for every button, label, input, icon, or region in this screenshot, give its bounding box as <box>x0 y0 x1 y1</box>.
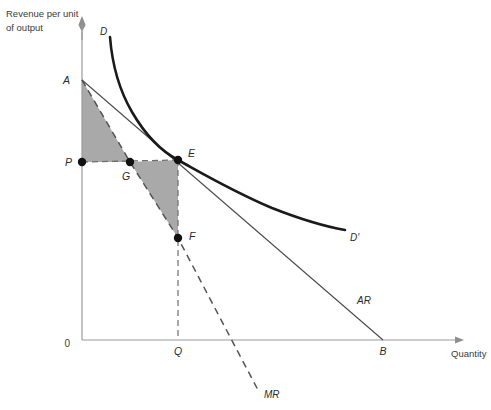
label-point-g: G <box>122 170 130 182</box>
point-dot-p <box>78 158 86 166</box>
label-curve-ar: AR <box>356 295 371 306</box>
point-dot-f <box>174 234 182 242</box>
figure-background <box>0 0 491 410</box>
diagram-canvas: Revenue per unit of output Quantity 0 A … <box>0 0 491 410</box>
label-curve-mr: MR <box>264 389 280 400</box>
x-axis-label: Quantity <box>451 348 487 359</box>
y-axis-label-line2: of output <box>6 22 43 33</box>
point-dot-e <box>174 156 182 164</box>
label-point-q: Q <box>174 345 182 357</box>
economics-diagram-figure: Revenue per unit of output Quantity 0 A … <box>0 0 491 410</box>
label-curve-d: D <box>100 26 107 37</box>
label-point-e: E <box>188 147 196 159</box>
origin-label: 0 <box>64 338 70 349</box>
label-point-a: A <box>62 74 70 86</box>
point-dot-g <box>126 158 134 166</box>
label-curve-d-prime: D' <box>350 232 360 243</box>
y-axis-label-line1: Revenue per unit <box>6 8 79 19</box>
label-point-b: B <box>379 345 386 357</box>
label-point-p: P <box>65 156 72 168</box>
label-point-f: F <box>189 230 196 242</box>
